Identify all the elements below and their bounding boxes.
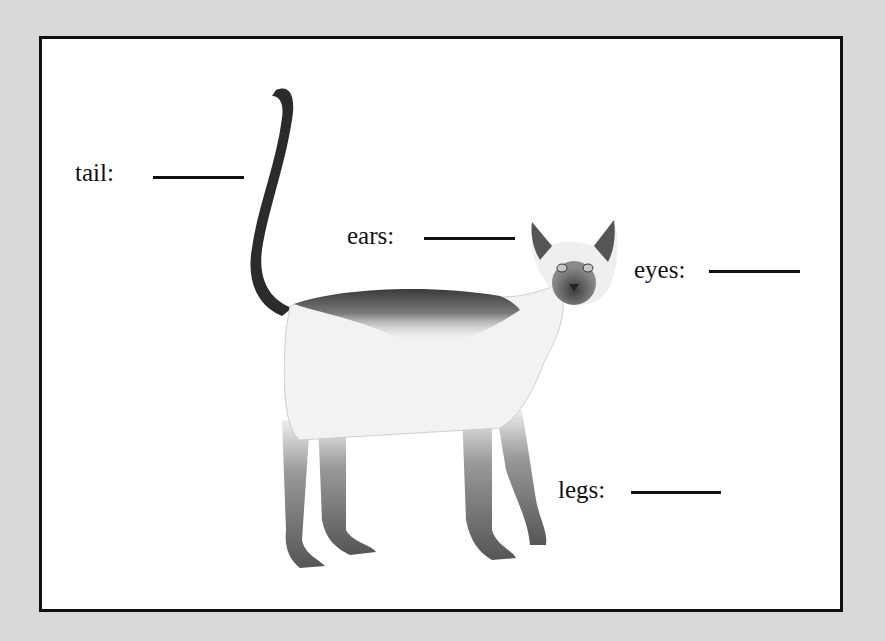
cat-leg-back-right (318, 420, 376, 555)
cat-illustration (0, 0, 885, 641)
cat-eye-left (557, 264, 567, 272)
cat-leg-back-left (282, 420, 325, 568)
answer-blank-tail[interactable] (153, 176, 244, 179)
cat-tail (250, 88, 293, 316)
answer-blank-eyes[interactable] (709, 270, 800, 273)
label-eyes: eyes: (634, 257, 685, 282)
label-tail: tail: (75, 160, 114, 185)
answer-blank-legs[interactable] (631, 491, 721, 494)
label-ears: ears: (347, 223, 394, 248)
answer-blank-ears[interactable] (424, 237, 515, 240)
cat-leg-front-right (496, 410, 546, 545)
cat-eye-right (583, 264, 593, 272)
label-legs: legs: (558, 477, 605, 502)
